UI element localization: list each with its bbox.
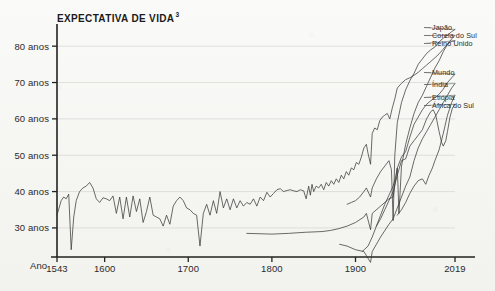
x-axis [51,24,475,257]
x-tick-label: 1600 [94,263,116,274]
series-line--frica-do-sul [376,104,455,226]
legend-label-africa-do-sul: África do Sul [432,101,474,110]
x-tick-label: 1900 [345,263,367,274]
life-expectancy-chart: 30 anos40 anos50 anos60 anos70 anos80 an… [0,0,495,291]
page-title: EXPECTATIVA DE VIDA [57,13,174,24]
y-tick-label: 30 anos [14,222,49,233]
legend-labels: JapãoCoreia do SulReino UnidoMundoÍndiaE… [432,23,477,110]
x-tick-label: 2019 [444,263,466,274]
gridlines [57,46,455,228]
x-axis-labels: 154316001700180019002019 [46,263,466,274]
y-tick-label: 50 anos [14,150,49,161]
x-axis-name: Ano [30,260,47,271]
y-tick-label: 60 anos [14,113,49,124]
legend-label-mundo: Mundo [432,68,454,77]
x-tick-label: 1700 [177,263,199,274]
legend-label-india: Índia [432,80,448,89]
y-tick-label: 70 anos [14,77,49,88]
series-lines [57,29,455,262]
series-line-mundo [247,74,455,234]
legend-label-reino-unido: Reino Unido [432,39,473,48]
y-axis-labels: 30 anos40 anos50 anos60 anos70 anos80 an… [14,41,49,234]
y-tick-label: 80 anos [14,41,49,52]
x-tick-label: 1800 [261,263,283,274]
chart-svg: 30 anos40 anos50 anos60 anos70 anos80 an… [0,0,495,291]
series-line-jap-o [347,29,455,220]
page-title-superscript: 3 [175,11,179,18]
y-tick-label: 40 anos [14,186,49,197]
x-tick-label: 1543 [46,263,68,274]
